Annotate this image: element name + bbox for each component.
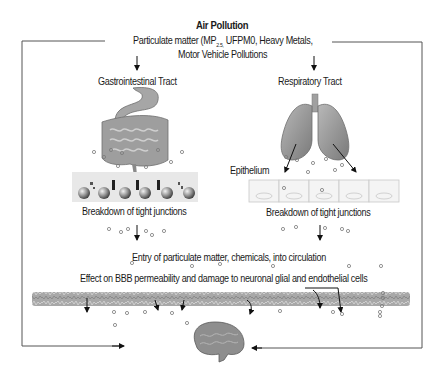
brain-icon	[194, 322, 244, 362]
gi-tight-junctions-label: Breakdown of tight junctions	[82, 205, 187, 217]
bbb-effect-label: Effect on BBB permeability and damage to…	[80, 272, 367, 284]
sources-prefix: Particulate matter (MP	[133, 34, 216, 46]
circulation-label: Entry of particulate matter, chemicals, …	[132, 251, 326, 263]
respiratory-tract-label: Respiratory Tract	[278, 75, 342, 87]
intestine-icon	[102, 116, 168, 176]
resp-tight-junctions-label: Breakdown of tight junctions	[266, 206, 371, 218]
gi-tract-label: Gastrointestinal Tract	[98, 75, 177, 87]
lungs-icon	[281, 94, 349, 160]
gi-epithelium	[72, 172, 198, 202]
bbb-endothelium	[32, 288, 410, 314]
respiratory-epithelium	[249, 180, 399, 202]
epithelium-label: Epithelium	[230, 164, 269, 176]
sources-suffix: UFPM0, Heavy Metals,	[224, 34, 313, 46]
diagram-title: Air Pollution	[196, 19, 248, 31]
pollutant-sources-line2: Motor Vehicle Pollutions	[178, 48, 267, 60]
